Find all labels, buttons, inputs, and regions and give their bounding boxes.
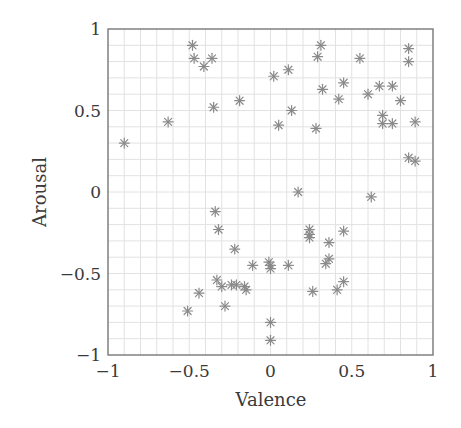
asterisk-marker (199, 61, 209, 71)
asterisk-marker (308, 286, 318, 296)
asterisk-marker (212, 275, 222, 285)
asterisk-marker (217, 282, 227, 292)
asterisk-marker (214, 224, 224, 234)
asterisk-marker (194, 288, 204, 298)
asterisk-marker (332, 285, 342, 295)
asterisk-marker (183, 306, 193, 316)
asterisk-marker (339, 78, 349, 88)
asterisk-marker (210, 207, 220, 217)
y-axis-ticks: −1−0.500.51 (60, 19, 101, 365)
asterisk-marker (410, 156, 420, 166)
asterisk-marker (305, 233, 315, 243)
asterisk-marker (396, 96, 406, 106)
asterisk-marker (363, 89, 373, 99)
asterisk-marker (324, 238, 334, 248)
asterisk-marker (231, 280, 241, 290)
asterisk-marker (339, 277, 349, 287)
asterisk-marker (266, 264, 276, 274)
asterisk-marker (188, 40, 198, 50)
x-tick-label: 1 (428, 361, 439, 381)
asterisk-marker (410, 117, 420, 127)
x-axis-label: Valence (235, 389, 307, 410)
asterisk-marker (404, 44, 414, 54)
x-tick-label: −0.5 (169, 361, 210, 381)
x-axis-ticks: −1−0.500.51 (95, 361, 438, 381)
asterisk-marker (163, 117, 173, 127)
asterisk-marker (207, 53, 217, 63)
data-points (119, 40, 420, 345)
asterisk-marker (189, 53, 199, 63)
asterisk-marker (404, 57, 414, 67)
asterisk-marker (355, 53, 365, 63)
asterisk-marker (266, 317, 276, 327)
asterisk-marker (287, 106, 297, 116)
asterisk-marker (387, 119, 397, 129)
asterisk-marker (334, 94, 344, 104)
y-tick-label: −0.5 (60, 264, 101, 284)
asterisk-marker (230, 244, 240, 254)
asterisk-marker (220, 301, 230, 311)
asterisk-marker (248, 260, 258, 270)
asterisk-marker (378, 119, 388, 129)
asterisk-marker (235, 96, 245, 106)
y-tick-label: 1 (90, 19, 101, 39)
asterisk-marker (283, 65, 293, 75)
asterisk-marker (387, 81, 397, 91)
grid (108, 29, 433, 355)
asterisk-marker (316, 40, 326, 50)
asterisk-marker (119, 138, 129, 148)
asterisk-marker (311, 123, 321, 133)
y-tick-label: 0.5 (74, 101, 101, 121)
asterisk-marker (266, 335, 276, 345)
asterisk-marker (274, 120, 284, 130)
asterisk-marker (339, 226, 349, 236)
y-tick-label: −1 (76, 345, 101, 365)
y-axis-label: Arousal (29, 157, 50, 228)
asterisk-marker (209, 102, 219, 112)
x-tick-label: 0.5 (338, 361, 365, 381)
asterisk-marker (374, 81, 384, 91)
asterisk-marker (318, 84, 328, 94)
asterisk-marker (283, 260, 293, 270)
y-tick-label: 0 (90, 182, 101, 202)
asterisk-marker (321, 259, 331, 269)
asterisk-marker (293, 187, 303, 197)
scatter-chart: −1−0.500.51 −1−0.500.51 Valence Arousal (0, 0, 461, 428)
asterisk-marker (366, 192, 376, 202)
asterisk-marker (313, 52, 323, 62)
x-tick-label: 0 (265, 361, 276, 381)
asterisk-marker (269, 71, 279, 81)
asterisk-marker (241, 285, 251, 295)
